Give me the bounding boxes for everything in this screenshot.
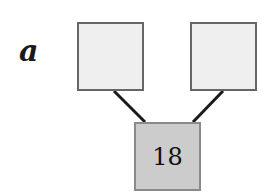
whole-box: 18 — [134, 122, 201, 191]
problem-label: a — [19, 36, 38, 66]
whole-value: 18 — [152, 143, 183, 171]
part-box-left[interactable] — [77, 22, 144, 91]
connector-left — [114, 91, 145, 122]
part-box-right[interactable] — [190, 22, 257, 91]
connector-right — [193, 91, 223, 122]
